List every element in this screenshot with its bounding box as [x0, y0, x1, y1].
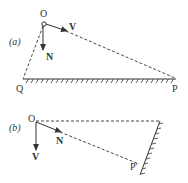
dashed-line-o-q: [23, 26, 43, 79]
panel-a-tag: (a): [9, 36, 21, 48]
velocity-label-b: V: [32, 151, 40, 162]
normal-label-b: N: [56, 135, 64, 146]
velocity-label-a: V: [69, 21, 77, 32]
point-q-label: Q: [16, 83, 24, 94]
point-p-prime-label: P′: [130, 161, 138, 172]
point-p-label: P: [172, 83, 178, 94]
diagram-canvas: (a) O V N Q P (b) O N V: [0, 0, 188, 183]
panel-b-tag: (b): [9, 122, 21, 134]
normal-label-a: N: [46, 51, 54, 62]
normal-arrow-b: [36, 122, 61, 132]
velocity-arrow-a: [46, 24, 67, 31]
panel-a-origin-label: O: [40, 8, 47, 19]
origin-point-a: [42, 22, 46, 26]
ground-hatching: [24, 79, 175, 84]
dashed-line-o-p-prime: [60, 132, 139, 164]
wall-hatching: [141, 123, 163, 174]
panel-b-origin-label: O: [28, 113, 35, 124]
dashed-line-o-p: [66, 31, 175, 78]
slanted-wall: [140, 121, 160, 175]
panel-b: (b) O N V P′: [9, 113, 163, 175]
panel-a: (a) O V N Q P: [9, 8, 178, 94]
